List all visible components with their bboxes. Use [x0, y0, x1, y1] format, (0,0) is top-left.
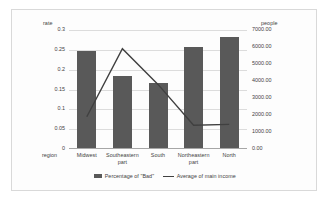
category-axis-labels: MidwestSoutheastern partSouthNortheaster… [69, 152, 247, 174]
category-label: South [140, 152, 176, 159]
left-axis-title: rate [43, 20, 53, 26]
left-axis-tick-label: 0.25 [55, 47, 66, 52]
line-swatch-icon [163, 176, 174, 177]
chart-container: rate people 0.30.250.20.150.10.050 7000.… [11, 9, 317, 191]
right-axis-tick-label: 7000.00 [252, 27, 272, 32]
right-axis-tick-label: 2000.00 [252, 112, 272, 117]
chart-legend: Percentage of "Bad" Average of main inco… [12, 173, 318, 179]
plot-area: 0.30.250.20.150.10.050 7000.006000.00500… [69, 30, 247, 149]
right-axis-tick-label: 3000.00 [252, 95, 272, 100]
right-axis-tick-label: 1000.00 [252, 129, 272, 134]
left-axis-tick-label: 0.05 [55, 126, 66, 131]
right-axis-tick-label: 5000.00 [252, 61, 272, 66]
left-axis-tick-label: 0.1 [58, 106, 66, 111]
legend-item-label: Percentage of "Bad" [105, 173, 154, 179]
category-axis-title: region [42, 152, 57, 158]
left-axis-tick-label: 0 [62, 146, 65, 151]
line-path [87, 49, 229, 126]
legend-item-label: Average of main income [177, 173, 236, 179]
legend-item-bad-rate: Percentage of "Bad" [94, 173, 154, 179]
left-axis-tick-label: 0.15 [55, 87, 66, 92]
right-axis-tick-label: 0.00 [252, 146, 263, 151]
left-axis-tick-label: 0.2 [58, 67, 66, 72]
right-axis-tick-label: 6000.00 [252, 44, 272, 49]
bar-swatch-icon [94, 174, 102, 178]
left-axis-tick-label: 0.3 [58, 27, 66, 32]
category-label: Southeastern part [105, 152, 141, 166]
category-axis-line [69, 148, 247, 149]
category-label: Northeastern part [176, 152, 212, 166]
line-series [69, 30, 247, 149]
category-label: Midwest [69, 152, 105, 159]
category-label: North [211, 152, 247, 159]
legend-item-main-income: Average of main income [163, 173, 236, 179]
right-axis-tick-label: 4000.00 [252, 78, 272, 83]
